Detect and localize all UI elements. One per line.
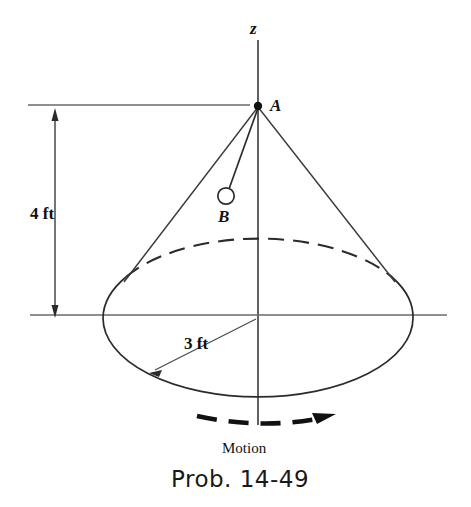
z-axis-label: z <box>250 20 257 37</box>
cone-slant-left <box>124 107 258 282</box>
height-dimension-arrow-bottom <box>52 305 59 318</box>
base-ellipse-hidden-arc <box>126 239 393 278</box>
ball-b-circle <box>218 188 234 204</box>
figure-caption: Prob. 14-49 <box>171 468 309 491</box>
cone-slant-right <box>258 107 395 282</box>
base-ellipse-right-rear <box>393 278 413 318</box>
motion-label: Motion <box>222 441 266 456</box>
radius-dimension-label: 3 ft <box>184 335 208 352</box>
cone-diagram-svg <box>0 0 471 507</box>
base-ellipse-left-rear <box>103 277 126 318</box>
cord-line <box>229 108 258 189</box>
height-dimension-label: 4 ft <box>30 205 54 222</box>
motion-arrow-head <box>312 413 336 424</box>
point-b-label: B <box>218 208 229 225</box>
apex-point-marker <box>254 102 262 110</box>
height-dimension-arrow-top <box>52 108 59 121</box>
point-a-label: A <box>270 97 281 114</box>
figure-canvas: z A B 4 ft 3 ft Motion Prob. 14-49 <box>0 0 471 507</box>
motion-arrow-arc <box>197 416 322 424</box>
